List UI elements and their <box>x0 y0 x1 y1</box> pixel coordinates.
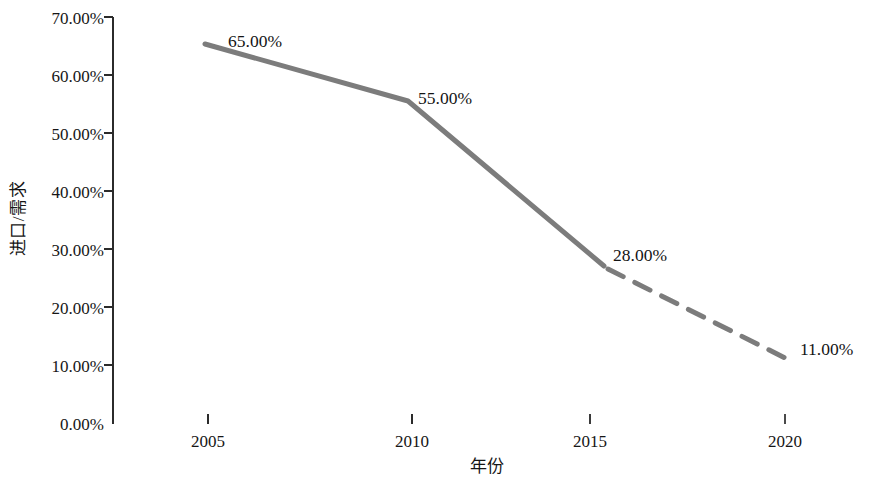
x-tick-label: 2015 <box>545 433 635 450</box>
y-tick-label: 70.00% <box>4 10 104 27</box>
data-label-2005: 65.00% <box>228 33 282 51</box>
y-tick-label: 0.00% <box>4 416 104 433</box>
y-axis-ticks <box>104 17 113 365</box>
series-line-historical <box>205 44 604 266</box>
y-tick-label: 10.00% <box>4 358 104 375</box>
data-label-2015: 28.00% <box>613 247 667 265</box>
data-label-2010: 55.00% <box>418 90 472 108</box>
x-axis-ticks <box>208 414 785 424</box>
x-tick-label: 2010 <box>367 433 457 450</box>
x-tick-label: 2005 <box>163 433 253 450</box>
series-line-forecast <box>608 269 787 359</box>
x-axis-title: 年份 <box>437 458 537 475</box>
y-tick-label: 60.00% <box>4 68 104 85</box>
x-tick-label: 2020 <box>740 433 830 450</box>
chart-container: 70.00% 60.00% 50.00% 40.00% 30.00% 20.00… <box>0 0 873 484</box>
y-tick-label: 20.00% <box>4 300 104 317</box>
line-chart-plot <box>0 0 873 484</box>
y-axis-title: 进口/需求 <box>10 179 27 259</box>
data-label-2020: 11.00% <box>800 341 853 359</box>
y-tick-label: 50.00% <box>4 126 104 143</box>
